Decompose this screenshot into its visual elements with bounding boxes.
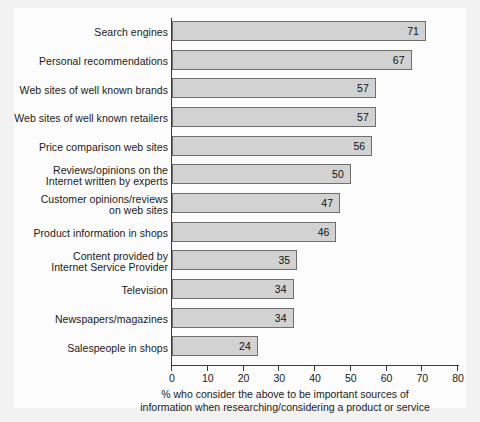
bar: 50 xyxy=(172,164,351,184)
x-tick xyxy=(314,366,315,371)
bar-value-label: 71 xyxy=(407,26,419,37)
bar: 56 xyxy=(172,136,372,156)
bar: 57 xyxy=(172,78,376,98)
bar: 35 xyxy=(172,250,297,270)
x-axis-caption: % who consider the above to be important… xyxy=(110,388,460,414)
bar-row: Web sites of well known brands57 xyxy=(0,78,480,107)
caption-line-2: information when researching/considering… xyxy=(110,401,460,414)
category-label-line: Salespeople in shops xyxy=(10,343,168,355)
bar-row: Salespeople in shops24 xyxy=(0,336,480,365)
category-label: Content provided byInternet Service Prov… xyxy=(10,251,168,274)
caption-line-1: % who consider the above to be important… xyxy=(110,388,460,401)
bar-value-label: 50 xyxy=(332,169,344,180)
bar-row: Newspapers/magazines34 xyxy=(0,308,480,337)
bar-row: Price comparison web sites56 xyxy=(0,136,480,165)
x-axis-line xyxy=(171,365,459,366)
bar: 24 xyxy=(172,336,258,356)
x-tick-label: 50 xyxy=(336,372,366,384)
category-label-line: Newspapers/magazines xyxy=(10,314,168,326)
x-tick-label: 40 xyxy=(300,372,330,384)
bar-row: Reviews/opinions on theInternet written … xyxy=(0,164,480,193)
x-tick xyxy=(243,366,244,371)
x-tick xyxy=(278,366,279,371)
bar-value-label: 35 xyxy=(278,255,290,266)
category-label: Customer opinions/reviewson web sites xyxy=(10,194,168,217)
bar-value-label: 24 xyxy=(239,341,251,352)
x-tick-label: 80 xyxy=(443,372,473,384)
bar: 71 xyxy=(172,21,426,41)
category-label: Price comparison web sites xyxy=(10,142,168,154)
bar: 67 xyxy=(172,50,412,70)
bar: 34 xyxy=(172,308,294,328)
category-label-line: Television xyxy=(10,285,168,297)
x-tick xyxy=(421,366,422,371)
category-label-line: Internet Service Provider xyxy=(10,262,168,274)
bar-value-label: 67 xyxy=(393,54,405,65)
category-label: Search engines xyxy=(10,27,168,39)
category-label-line: on web sites xyxy=(10,205,168,217)
bar: 46 xyxy=(172,222,336,242)
bar: 34 xyxy=(172,279,294,299)
category-label-line: Personal recommendations xyxy=(10,56,168,68)
x-tick xyxy=(171,366,172,371)
bar-value-label: 46 xyxy=(318,226,330,237)
category-label: Web sites of well known brands xyxy=(10,85,168,97)
x-tick-label: 60 xyxy=(372,372,402,384)
bar-value-label: 56 xyxy=(354,140,366,151)
category-label: Newspapers/magazines xyxy=(10,314,168,326)
bar-row: Web sites of well known retailers57 xyxy=(0,107,480,136)
category-label: Salespeople in shops xyxy=(10,343,168,355)
bar-chart: Search engines71Personal recommendations… xyxy=(0,0,480,422)
x-tick xyxy=(207,366,208,371)
bar: 47 xyxy=(172,193,340,213)
bar-value-label: 57 xyxy=(357,83,369,94)
category-label: Personal recommendations xyxy=(10,56,168,68)
y-axis-line xyxy=(171,18,172,366)
category-label-line: Search engines xyxy=(10,27,168,39)
category-label-line: Web sites of well known retailers xyxy=(10,113,168,125)
bar-value-label: 57 xyxy=(357,112,369,123)
category-label-line: Product information in shops xyxy=(10,228,168,240)
bar: 57 xyxy=(172,107,376,127)
x-tick-label: 70 xyxy=(407,372,437,384)
bar-row: Content provided byInternet Service Prov… xyxy=(0,250,480,279)
x-tick xyxy=(350,366,351,371)
category-label: Product information in shops xyxy=(10,228,168,240)
bar-rows: Search engines71Personal recommendations… xyxy=(0,21,480,365)
x-tick xyxy=(386,366,387,371)
x-tick xyxy=(457,366,458,371)
bar-row: Search engines71 xyxy=(0,21,480,50)
category-label: Web sites of well known retailers xyxy=(10,113,168,125)
x-tick-label: 20 xyxy=(229,372,259,384)
bar-row: Personal recommendations67 xyxy=(0,50,480,79)
category-label-line: Price comparison web sites xyxy=(10,142,168,154)
x-tick-label: 0 xyxy=(157,372,187,384)
x-tick-label: 10 xyxy=(193,372,223,384)
bar-value-label: 47 xyxy=(321,198,333,209)
bar-row: Television34 xyxy=(0,279,480,308)
category-label-line: Internet written by experts xyxy=(10,176,168,188)
category-label: Television xyxy=(10,285,168,297)
x-tick-label: 30 xyxy=(264,372,294,384)
category-label-line: Web sites of well known brands xyxy=(10,85,168,97)
bar-value-label: 34 xyxy=(275,284,287,295)
bar-value-label: 34 xyxy=(275,312,287,323)
category-label: Reviews/opinions on theInternet written … xyxy=(10,165,168,188)
bar-row: Product information in shops46 xyxy=(0,222,480,251)
bar-row: Customer opinions/reviewson web sites47 xyxy=(0,193,480,222)
